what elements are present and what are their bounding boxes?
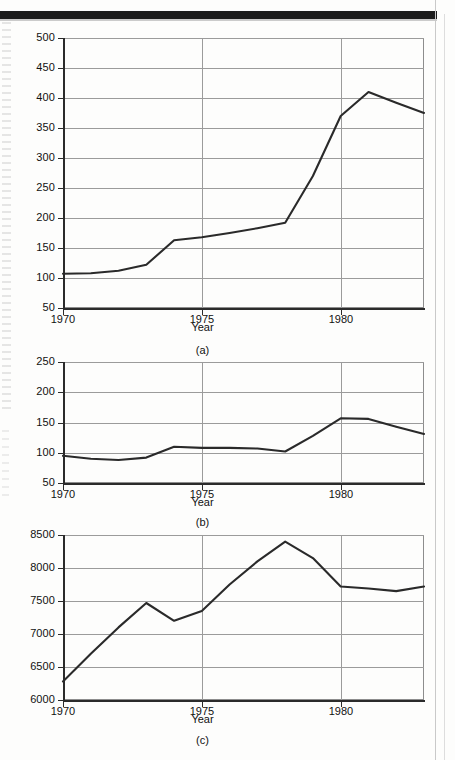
x-axis-title: Year	[0, 713, 430, 725]
panel-caption: (c)	[0, 734, 430, 746]
data-series-line-c	[0, 0, 455, 760]
scanned-page: 5010015020025030035040045050019701975198…	[0, 0, 455, 760]
